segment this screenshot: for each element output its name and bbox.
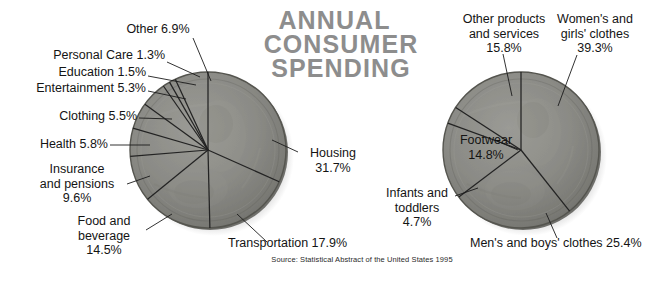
- leader-housing: [272, 140, 298, 152]
- pie-label-food-and-beverage: Food and beverage 14.5%: [63, 214, 145, 258]
- leader-other-products: [503, 54, 512, 96]
- leader-infants: [455, 188, 478, 196]
- pie-label-infants-and-toddlers: Infants and toddlers 4.7%: [378, 186, 456, 230]
- pie-label-transportation: Transportation 17.9%: [228, 236, 388, 251]
- leader-womens: [558, 55, 577, 106]
- leader-clothing: [139, 118, 172, 119]
- leader-mens: [546, 213, 557, 238]
- pie-label-footwear: Footwear 14.8%: [450, 133, 522, 162]
- pie-label-entertainment: Entertainment 5.3%: [0, 81, 146, 96]
- pie-label-health: Health 5.8%: [0, 137, 108, 152]
- pie-label-clothing: Clothing 5.5%: [0, 109, 137, 124]
- pie-label-other-products-and-services: Other products and services 15.8%: [452, 12, 556, 56]
- source-note: Source: Statistical Abstract of the Unit…: [247, 255, 477, 264]
- pie-label-housing: Housing 31.7%: [300, 146, 366, 175]
- chart-canvas: ANNUAL CONSUMER SPENDING: [0, 0, 670, 284]
- leader-personal-care: [167, 62, 200, 77]
- leader-entertainment: [148, 91, 186, 99]
- pie-label-mens-and-boys-clothes: Men's and boys' clothes 25.4%: [470, 236, 670, 251]
- leader-education: [148, 76, 196, 85]
- leader-other: [193, 38, 211, 81]
- pie-label-personal-care: Personal Care 1.3%: [0, 48, 165, 63]
- pie-label-womens-and-girls-clothes: Women's and girls' clothes 39.3%: [543, 12, 647, 56]
- leader-food: [146, 214, 172, 230]
- leader-insurance: [127, 176, 150, 184]
- pie-label-education: Education 1.5%: [0, 65, 146, 80]
- pie-label-other: Other 6.9%: [113, 22, 203, 37]
- pie-label-insurance-and-pensions: Insurance and pensions 9.6%: [28, 162, 126, 206]
